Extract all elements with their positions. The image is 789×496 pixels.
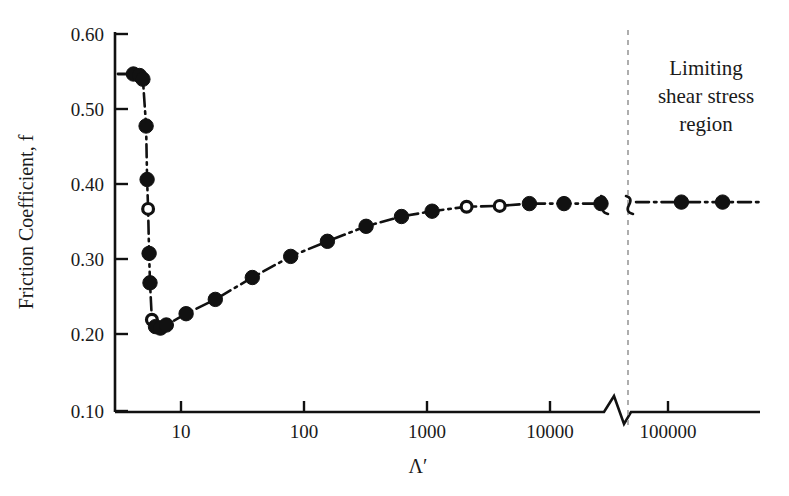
y-tick-label: 0.40 [71, 174, 104, 195]
data-point-filled [284, 249, 298, 263]
x-tick-label: 10000 [526, 421, 574, 442]
data-point-filled [715, 195, 729, 209]
data-point-filled [136, 72, 150, 86]
y-tick-labels: 0.60 0.50 0.40 0.30 0.20 0.10 [71, 24, 104, 422]
data-point-filled [557, 196, 571, 210]
data-point-filled [522, 196, 536, 210]
y-axis-title: Friction Coefficient, f [15, 134, 37, 309]
data-point-filled [208, 292, 222, 306]
data-point-filled [179, 307, 193, 321]
data-point-filled [594, 196, 608, 210]
data-point-filled [394, 209, 408, 223]
y-tick-marks [115, 34, 128, 411]
data-point-filled [359, 219, 373, 233]
data-point-filled [320, 234, 334, 248]
data-point-filled [139, 119, 153, 133]
y-tick-label: 0.20 [71, 324, 104, 345]
y-tick-label: 0.60 [71, 24, 104, 45]
x-axis-line [115, 396, 760, 424]
x-tick-label: 10 [172, 421, 191, 442]
data-point-filled [159, 318, 173, 332]
data-point-open [494, 201, 505, 212]
x-tick-label: 100 [290, 421, 319, 442]
y-tick-label: 0.10 [71, 401, 104, 422]
annotation-line-1: Limiting [669, 56, 743, 80]
x-axis-title: Λ′ [409, 455, 428, 477]
data-point-filled [140, 172, 154, 186]
annotation-line-3: region [679, 112, 733, 136]
data-point-filled [143, 276, 157, 290]
data-point-filled [142, 246, 156, 260]
y-tick-label: 0.50 [71, 99, 104, 120]
x-tick-marks [181, 401, 668, 412]
data-point-open [143, 204, 154, 215]
annotation-line-2: shear stress [658, 84, 754, 108]
friction-coefficient-chart: 0.60 0.50 0.40 0.30 0.20 0.10 10 100 100… [0, 0, 789, 496]
data-point-filled [425, 204, 439, 218]
figure-container: 0.60 0.50 0.40 0.30 0.20 0.10 10 100 100… [0, 0, 789, 496]
x-tick-label: 1000 [408, 421, 446, 442]
x-tick-label: 100000 [640, 421, 697, 442]
data-point-open [461, 201, 472, 212]
curve-layer [118, 74, 762, 328]
data-point-filled [674, 195, 688, 209]
data-point-filled [245, 270, 259, 284]
y-tick-label: 0.30 [71, 249, 104, 270]
x-tick-labels: 10 100 1000 10000 100000 [172, 421, 697, 442]
limiting-shear-stress-annotation: Limiting shear stress region [658, 56, 754, 136]
